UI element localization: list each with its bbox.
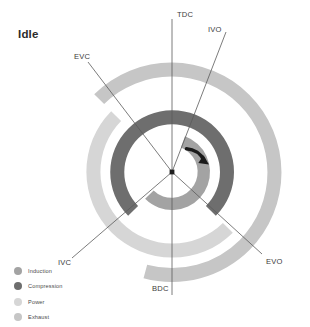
legend-label-compression: Compression [28,282,63,290]
legend-swatch-induction [14,267,22,275]
label-evo: EVO [266,257,283,266]
band-induction [145,136,210,210]
label-evc: EVC [74,52,91,61]
legend-item-power[interactable]: Power [14,297,63,306]
legend-label-exhaust: Exhaust [28,313,49,321]
label-ivo: IVO [208,25,222,34]
legend-item-exhaust[interactable]: Exhaust [14,313,63,322]
centre-hub [170,170,175,175]
legend-item-induction[interactable]: Induction [14,266,63,275]
legend-swatch-exhaust [14,313,22,321]
label-bdc: BDC [152,284,169,293]
legend-label-power: Power [28,298,45,306]
page-title: Idle [18,28,39,40]
legend-swatch-power [14,298,22,306]
valve-timing-diagram: TDC IVO EVC IVC BDC EVO Idle Induction C… [0,0,310,327]
legend: Induction Compression Power Exhaust [14,266,63,322]
label-tdc: TDC [177,10,194,19]
legend-item-compression[interactable]: Compression [14,282,63,291]
spiral-bands [86,63,281,282]
legend-swatch-compression [14,282,22,290]
legend-label-induction: Induction [28,267,52,275]
